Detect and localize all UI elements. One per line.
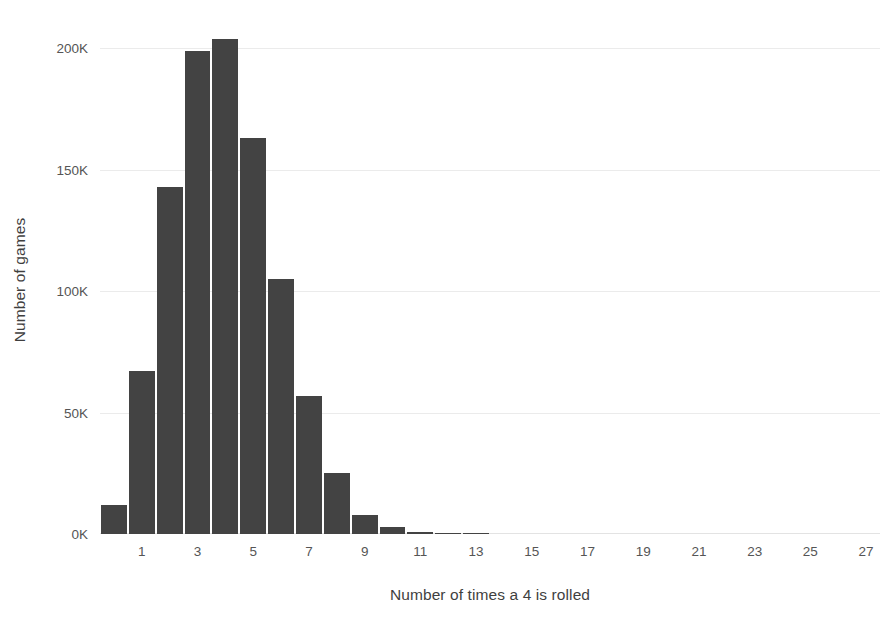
bar: [185, 51, 211, 534]
x-axis-tick-label: 13: [469, 544, 484, 559]
x-axis-tick-label: 9: [361, 544, 369, 559]
x-axis-title: Number of times a 4 is rolled: [100, 586, 880, 604]
x-axis-tick-label: 27: [859, 544, 874, 559]
x-axis-tick-label: 3: [194, 544, 202, 559]
y-axis-tick-label: 100K: [28, 284, 88, 299]
bar: [352, 515, 378, 534]
x-axis-tick-label: 19: [636, 544, 651, 559]
bar: [407, 532, 433, 534]
bar: [268, 279, 294, 534]
bar: [157, 187, 183, 534]
x-axis-tick-label: 25: [803, 544, 818, 559]
bar: [324, 473, 350, 534]
y-axis-tick-label: 200K: [28, 41, 88, 56]
x-axis-tick-label: 1: [138, 544, 146, 559]
x-axis-tick-label: 17: [580, 544, 595, 559]
y-axis-title: Number of games: [0, 0, 40, 560]
y-axis-tick-label: 150K: [28, 162, 88, 177]
bar: [212, 39, 238, 534]
bar: [129, 371, 155, 534]
bar: [240, 138, 266, 534]
x-axis-tick-label: 15: [524, 544, 539, 559]
histogram-figure: Number of games 0K50K100K150K200K Number…: [0, 0, 885, 622]
x-axis-tick-label: 5: [249, 544, 257, 559]
x-axis-tick-label: 11: [413, 544, 427, 559]
bar: [463, 533, 489, 534]
y-axis-title-text: Number of games: [11, 218, 29, 343]
plot-area: 0K50K100K150K200K: [100, 12, 880, 534]
x-axis-tick-label: 21: [691, 544, 706, 559]
y-axis-tick-label: 50K: [28, 405, 88, 420]
y-axis-tick-label: 0K: [28, 527, 88, 542]
bar: [435, 533, 461, 534]
x-axis-tick-label: 23: [747, 544, 762, 559]
bar: [380, 527, 406, 534]
bar: [101, 505, 127, 534]
bar: [296, 396, 322, 534]
x-axis-tick-label: 7: [305, 544, 313, 559]
